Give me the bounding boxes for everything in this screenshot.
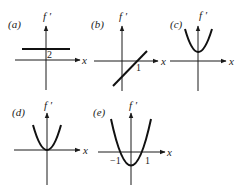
panel-a-tick-2: 2: [47, 49, 52, 60]
panel-e: (e) f ′ x −1 1: [93, 99, 172, 185]
panel-d-y-label: f ′: [44, 99, 53, 111]
panel-b-tick-1: 1: [136, 62, 141, 73]
panel-e-label: (e): [93, 106, 106, 119]
derivative-graphs-figure: (a) f ′ x 2 (b) f ′ x 1 (c) f ′ x (d) f …: [0, 0, 249, 194]
panel-a-label: (a): [8, 18, 21, 31]
panel-a: (a) f ′ x 2: [8, 10, 87, 90]
panel-c-x-label: x: [228, 55, 234, 67]
panel-e-tick-1: 1: [145, 155, 150, 166]
panel-c-label: (c): [170, 18, 183, 31]
panel-e-x-label: x: [166, 146, 172, 158]
panel-b-x-label: x: [160, 55, 166, 67]
panel-d: (d) f ′ x: [12, 99, 88, 185]
panel-d-x-label: x: [82, 144, 88, 156]
panel-b-linear-line: [113, 51, 147, 86]
panel-c-y-label: f ′: [199, 9, 208, 21]
panel-b: (b) f ′ x 1: [91, 10, 166, 91]
panel-a-x-label: x: [81, 54, 87, 66]
panel-c: (c) f ′ x: [170, 9, 234, 91]
panel-e-y-label: f ′: [129, 99, 138, 111]
panel-d-label: (d): [12, 106, 25, 119]
panel-b-label: (b): [91, 18, 104, 31]
panel-a-y-label: f ′: [43, 10, 52, 22]
panel-b-y-label: f ′: [119, 10, 128, 22]
panel-e-tick-neg1: −1: [110, 155, 121, 166]
